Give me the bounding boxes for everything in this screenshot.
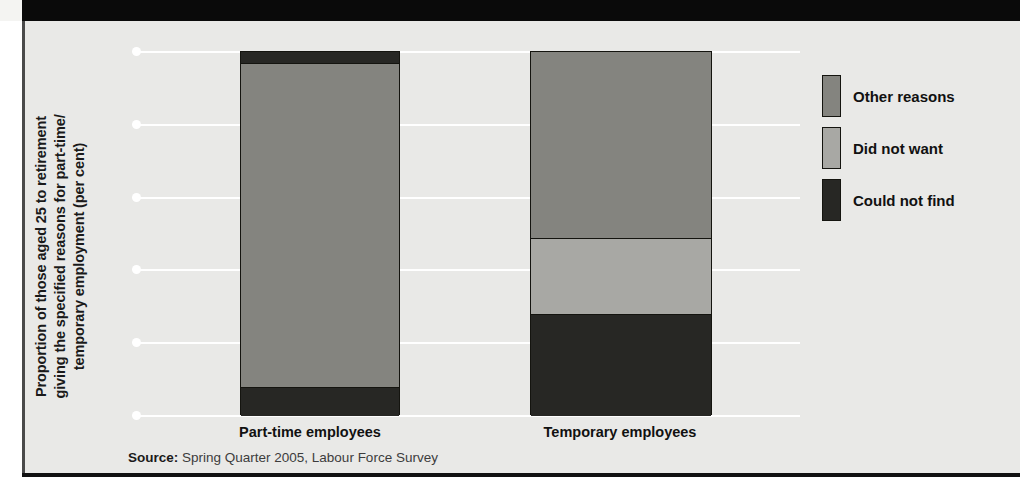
y-axis-title-line-3: temporary employment (per cent) [70,57,89,457]
legend-item-other-reasons: Other reasons [822,70,955,122]
tickdot-0 [132,411,141,420]
plot-area: 100 80 60 40 20 0 [140,51,800,415]
bar-segment-other-reasons [241,63,399,387]
bar-segment-top-band [241,52,399,63]
bar-part-time-employees [240,51,400,415]
tickdot-20 [132,338,141,347]
legend-label-did-not-want: Did not want [853,140,943,157]
tickdot-60 [132,193,141,202]
source-note-text: Spring Quarter 2005, Labour Force Survey [178,450,438,465]
x-axis-label-part-time-employees: Part-time employees [170,424,450,440]
chart-figure: Proportion of those aged 25 to retiremen… [0,0,1020,483]
y-axis-title-line-2: giving the specified reasons for part-ti… [51,57,70,457]
bar-segment-could-not-find [531,314,711,416]
legend-item-did-not-want: Did not want [822,122,955,174]
y-axis-title-line-1: Proportion of those aged 25 to retiremen… [32,57,51,457]
tickdot-80 [132,120,141,129]
panel-left-border [22,21,25,476]
tickdot-40 [132,265,141,274]
source-note-prefix: Source: [128,450,178,465]
header-band [22,0,1020,21]
bar-segment-did-not-want [531,238,711,314]
source-note: Source: Spring Quarter 2005, Labour Forc… [128,450,438,465]
legend-swatch-did-not-want [822,127,841,169]
bar-segment-could-not-find [241,387,399,416]
tickdot-100 [132,47,141,56]
header-band-margin [0,0,22,21]
legend-swatch-other-reasons [822,75,841,117]
bar-temporary-employees [530,51,712,415]
legend-item-could-not-find: Could not find [822,174,955,226]
legend-label-other-reasons: Other reasons [853,88,955,105]
bar-segment-other-reasons [531,52,711,238]
chart-legend: Other reasons Did not want Could not fin… [822,70,955,226]
y-axis-title: Proportion of those aged 25 to retiremen… [32,57,89,457]
legend-label-could-not-find: Could not find [853,192,955,209]
x-axis-label-temporary-employees: Temporary employees [480,424,760,440]
legend-swatch-could-not-find [822,179,841,221]
panel-footer-margin [0,477,1020,483]
